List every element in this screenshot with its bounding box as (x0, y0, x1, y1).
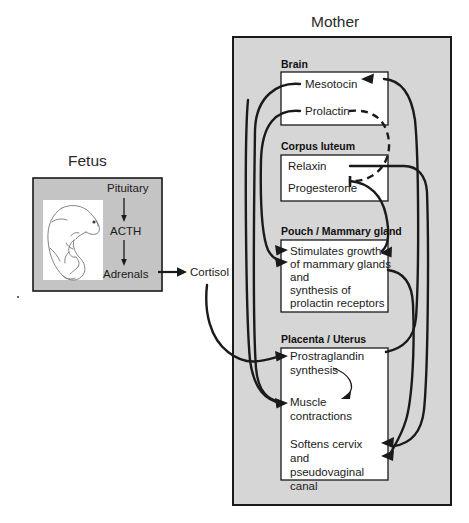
mother-title: Mother (311, 13, 359, 30)
corpus-luteum-item-relaxin: Relaxin (288, 160, 326, 173)
fetus-title: Fetus (68, 152, 107, 169)
scan-artifact-dot (17, 296, 19, 298)
corpus-luteum-item-progesterone: Progesterone (288, 182, 357, 195)
placenta-item-line-4: contractions (290, 410, 352, 423)
placenta-item-line-8: canal (290, 480, 318, 493)
pouch-item-line-1: Stimulates growth (290, 245, 381, 258)
section-header-placenta-uterus: Placenta / Uterus (281, 334, 366, 346)
pouch-item-line-2: of mammary glands (290, 258, 391, 271)
placenta-item-line-7: pseudovaginal (290, 466, 364, 479)
brain-item-mesotocin: Mesotocin (305, 78, 357, 91)
arrowhead-adrenals-cortisol (177, 267, 187, 277)
pouch-item-line-4: synthesis of (290, 284, 351, 297)
fetus-adrenals-label: Adrenals (103, 268, 148, 281)
placenta-item-line-6: and (290, 452, 309, 465)
fetus-pituitary-label: Pituitary (107, 182, 149, 195)
section-header-brain: Brain (281, 59, 308, 71)
placenta-item-line-1: Prostraglandin (290, 350, 364, 363)
section-header-corpus-luteum: Corpus luteum (281, 141, 355, 153)
brain-item-prolactin: Prolactin (305, 105, 350, 118)
fetus-image-plate (43, 200, 103, 280)
placenta-item-line-3: Muscle (290, 396, 326, 409)
pouch-item-line-3: and (290, 271, 309, 284)
pouch-item-line-5: prolactin receptors (290, 297, 385, 310)
cortisol-label: Cortisol (190, 266, 229, 279)
placenta-item-line-5: Softens cervix (290, 438, 362, 451)
fetus-acth-label: ACTH (110, 225, 141, 238)
section-header-pouch-mammary: Pouch / Mammary gland (281, 226, 402, 238)
placenta-item-line-2: synthesis (290, 364, 338, 377)
diagram-canvas: Fetus Pituitary ACTH Adrenals Cortisol M… (0, 0, 469, 523)
